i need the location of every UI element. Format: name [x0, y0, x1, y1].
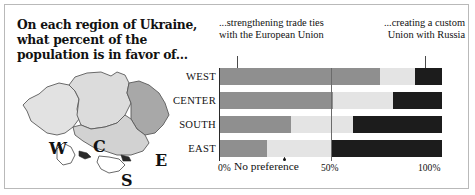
bar-segment-west-s2[interactable]: [415, 68, 442, 85]
annotation-eu-label: ...strengthening trade ties with the Eur…: [219, 17, 344, 42]
bar-segment-center-s2[interactable]: [393, 92, 442, 109]
bar-segment-south-s2[interactable]: [353, 116, 442, 133]
bar-segment-center-s1[interactable]: [333, 92, 393, 109]
bar-segment-east-s0[interactable]: [220, 140, 267, 157]
bar-segment-east-s1[interactable]: [267, 140, 331, 157]
row-label-east: EAST: [150, 143, 216, 154]
bar-segment-east-s2[interactable]: [331, 140, 442, 157]
x-tick-50: 50%: [321, 162, 339, 173]
bar-segment-south-s1[interactable]: [291, 116, 353, 133]
bar-segment-south-s0[interactable]: [220, 116, 291, 133]
row-label-center: CENTER: [150, 95, 216, 106]
x-tick-100: 100%: [418, 162, 440, 173]
bar-segment-west-s1[interactable]: [380, 68, 416, 85]
row-label-west: WEST: [150, 71, 216, 82]
row-label-south: SOUTH: [150, 119, 216, 130]
bar-segment-center-s0[interactable]: [220, 92, 333, 109]
infographic-panel: On each region of Ukraine, what percent …: [4, 4, 469, 189]
gridline-50: [331, 68, 332, 161]
no-preference-label: No preference: [234, 160, 299, 172]
bar-segment-west-s0[interactable]: [220, 68, 380, 85]
stacked-bar-chart: ...strengthening trade ties with the Eur…: [5, 5, 470, 190]
x-tick-0: 0%: [218, 162, 231, 173]
annotation-russia-label: ...creating a custom Union with Russia: [357, 17, 465, 42]
